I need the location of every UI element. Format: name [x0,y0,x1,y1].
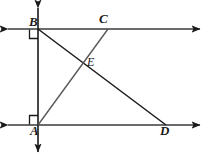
segment-ac [38,29,108,125]
point-label-e: E [87,56,94,69]
point-label-d: D [160,124,169,137]
point-label-a: A [30,124,39,137]
geometry-figure: A B C D E [0,0,209,161]
segment-bd [38,29,166,125]
point-label-b: B [29,15,38,28]
point-label-c: C [99,12,108,25]
right-angle-mark-b [30,30,39,39]
